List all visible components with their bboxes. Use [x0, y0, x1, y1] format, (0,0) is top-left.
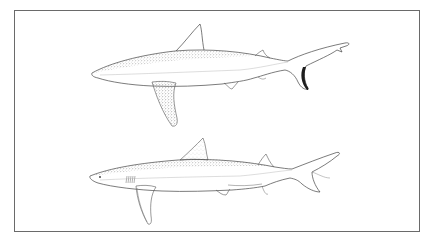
shark-lower-caudal-fin: [312, 172, 330, 178]
shark-lower: [90, 138, 340, 224]
shark-illustration-plate: [0, 0, 437, 245]
shark-upper-first-dorsal-fin: [176, 24, 204, 51]
shark-upper-pectoral-fin: [152, 81, 177, 126]
shark-lower-body: [90, 152, 340, 192]
shark-upper-anal-fin: [258, 77, 266, 79]
shark-upper-second-dorsal-fin: [255, 50, 270, 58]
shark-lower-gill-slits: [126, 176, 135, 183]
shark-upper: [92, 24, 349, 126]
shark-lower-pectoral-fin: [136, 185, 156, 224]
shark-lower-eye: [99, 176, 101, 178]
shark-lower-first-dorsal-fin: [180, 138, 208, 160]
shark-lower-anal-fin: [228, 184, 268, 194]
